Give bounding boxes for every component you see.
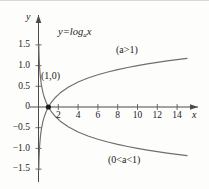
x-tick-label-12: 12 [149,111,165,121]
equation-text: y=log [58,26,83,37]
plot-canvas [0,0,209,189]
lower-curve-annotation: (0<a<1) [108,155,140,165]
y-tick-label-0-5: 0.5 [6,82,30,92]
x-axis [30,104,198,110]
x-tick-label-6: 6 [90,111,106,121]
x-tick-label-14: 14 [169,111,185,121]
x-tick-label-8: 8 [110,111,126,121]
equation-label: y=logax [58,27,91,39]
y-tick-label-1-0: 1.0 [6,61,30,71]
y-tick-label-0: 0 [6,102,30,112]
x-tick-label-10: 10 [130,111,146,121]
y-tick-label-neg-1-5: −1.5 [2,164,30,174]
logarithm-graph-figure: 1.5 1.0 0.5 0 −0.5 −1.0 −1.5 2 4 6 8 10 … [0,0,209,189]
y-axis-label: y [26,12,30,22]
point-1-0-label: (1,0) [41,71,60,81]
y-tick-label-neg-1-0: −1.0 [2,144,30,154]
y-axis [36,15,42,182]
x-axis-label: x [192,110,196,120]
upper-curve-annotation: (a>1) [116,45,138,55]
y-tick-label-1-5: 1.5 [6,40,30,50]
y-axis-arrowhead [36,15,42,23]
x-tick-label-2: 2 [50,111,66,121]
equation-variable: x [87,26,92,37]
y-tick-label-neg-0-5: −0.5 [2,123,30,133]
point-1-0-marker [46,104,51,109]
x-tick-label-4: 4 [70,111,86,121]
